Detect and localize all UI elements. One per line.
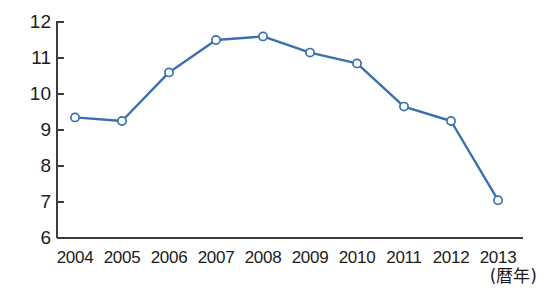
- data-point-marker: [118, 117, 126, 125]
- x-axis-tick-label: 2012: [425, 249, 477, 266]
- x-axis-tick-label: 2005: [96, 249, 148, 266]
- x-axis-title: (暦年): [490, 268, 537, 285]
- data-point-marker: [212, 36, 220, 44]
- data-point-marker: [71, 113, 79, 121]
- chart-data-markers: [71, 32, 502, 204]
- data-point-marker: [400, 103, 408, 111]
- chart-axes: [57, 21, 523, 238]
- y-axis-tick-label: 11: [23, 48, 51, 67]
- data-line: [75, 36, 498, 200]
- data-point-marker: [447, 117, 455, 125]
- y-axis-tick-label: 8: [23, 156, 51, 175]
- line-chart: 1211109876 20042005200620072008200920102…: [0, 0, 553, 301]
- data-point-marker: [306, 49, 314, 57]
- data-point-marker: [165, 68, 173, 76]
- chart-data-series: [75, 36, 498, 200]
- data-point-marker: [259, 32, 267, 40]
- y-axis-tick-label: 10: [23, 84, 51, 103]
- y-axis-tick-label: 7: [23, 192, 51, 211]
- y-axis-tick-label: 9: [23, 120, 51, 139]
- x-axis-tick-label: 2010: [331, 249, 383, 266]
- x-axis-tick-label: 2011: [378, 249, 430, 266]
- x-axis-tick-label: 2007: [190, 249, 242, 266]
- x-axis-tick-label: 2006: [143, 249, 195, 266]
- x-axis-tick-label: 2008: [237, 249, 289, 266]
- y-axis-tick-label: 12: [23, 12, 51, 31]
- x-axis-tick-label: 2009: [284, 249, 336, 266]
- x-axis-tick-label: 2004: [49, 249, 101, 266]
- x-axis-tick-label: 2013: [472, 249, 524, 266]
- y-axis-tick-label: 6: [23, 228, 51, 247]
- data-point-marker: [494, 196, 502, 204]
- data-point-marker: [353, 59, 361, 67]
- chart-axis-ticks: [57, 22, 64, 202]
